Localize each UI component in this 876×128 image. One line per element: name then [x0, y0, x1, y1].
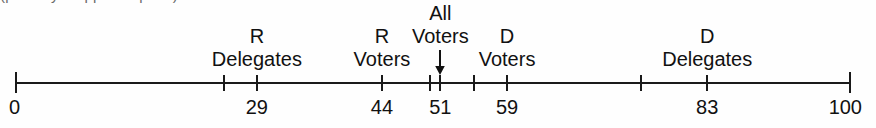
value-label-all-voters: 51 [429, 96, 451, 118]
group-label-line1: R [354, 25, 411, 48]
group-label-all-voters: AllVoters [412, 2, 469, 48]
value-label-r-delegates: 29 [246, 96, 268, 118]
down-arrow-icon [432, 50, 448, 76]
axis-tick-r-delegates [256, 75, 258, 91]
axis-label-min: 0 [9, 96, 20, 118]
number-line-figure: (partially cropped caption) 0 100 29RDel… [0, 0, 876, 128]
axis-tick-unlabeled [640, 75, 642, 91]
group-label-line2: Delegates [662, 48, 752, 71]
group-label-line1: D [662, 25, 752, 48]
axis-tick-unlabeled [223, 75, 225, 91]
axis-tick-all-voters [439, 75, 441, 91]
axis-tick-all-voters-secondary [429, 75, 431, 91]
axis-tick-min [15, 72, 17, 93]
group-label-line1: All [412, 2, 469, 25]
group-label-d-delegates: DDelegates [662, 25, 752, 71]
axis-tick-max [849, 72, 851, 93]
axis-tick-d-voters [506, 75, 508, 91]
group-label-line2: Voters [354, 48, 411, 71]
cropped-caption-fragment: (partially cropped caption) [0, 0, 300, 6]
group-label-line1: R [212, 25, 302, 48]
value-label-d-voters: 59 [496, 96, 518, 118]
group-label-line2: Delegates [212, 48, 302, 71]
axis-line [15, 82, 850, 84]
axis-label-max: 100 [829, 96, 862, 118]
group-label-line2: Voters [479, 48, 536, 71]
value-label-d-delegates: 83 [696, 96, 718, 118]
group-label-line2: Voters [412, 25, 469, 48]
axis-tick-r-voters [381, 75, 383, 91]
group-label-line1: D [479, 25, 536, 48]
group-label-r-delegates: RDelegates [212, 25, 302, 71]
value-label-r-voters: 44 [371, 96, 393, 118]
axis-tick-d-delegates [706, 75, 708, 91]
axis-tick-unlabeled [473, 75, 475, 91]
group-label-r-voters: RVoters [354, 25, 411, 71]
group-label-d-voters: DVoters [479, 25, 536, 71]
